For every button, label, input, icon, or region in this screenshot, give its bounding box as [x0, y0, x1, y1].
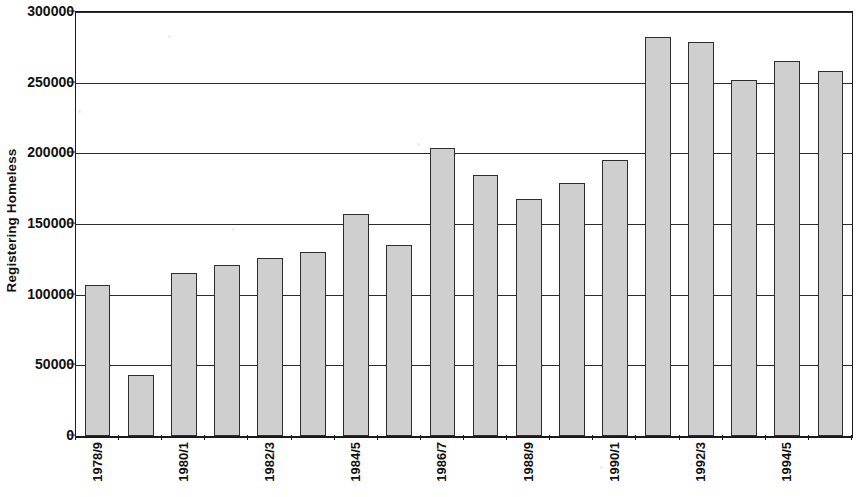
y-axis-tick-label: 250000 — [27, 75, 74, 89]
bar — [516, 199, 542, 436]
x-axis-tick-label: 1980/1 — [176, 442, 190, 496]
x-axis-tick-label-text: 1992/3 — [694, 442, 707, 482]
bar — [171, 273, 197, 436]
bar — [128, 375, 154, 436]
x-axis-tick-label-text: 1986/7 — [435, 442, 448, 482]
y-axis-tick-mark — [68, 81, 75, 82]
y-axis-tick-label: 300000 — [27, 4, 74, 18]
scan-artifact — [168, 35, 171, 38]
x-axis-tick-label: 1994/5 — [779, 442, 793, 496]
y-axis-tick-label: 150000 — [27, 216, 74, 230]
y-axis-tick-mark — [68, 435, 75, 436]
x-axis-tick-label: 1984/5 — [348, 442, 362, 496]
bar — [559, 183, 585, 436]
bar — [731, 80, 757, 436]
bar — [688, 42, 714, 436]
x-axis-tick-label-text: 1984/5 — [349, 442, 362, 482]
x-axis-tick-label: 1992/3 — [693, 442, 707, 496]
bar-chart: Registering Homeless 0500001000001500002… — [0, 0, 857, 497]
plot-area — [75, 11, 853, 438]
bar-series — [76, 12, 852, 436]
scan-artifact — [690, 463, 693, 466]
x-axis-tick-label-text: 1982/3 — [263, 442, 276, 482]
bar — [214, 265, 240, 436]
y-axis-tick-mark — [68, 152, 75, 153]
y-axis-tick-mark — [68, 223, 75, 224]
x-axis-tick-label-text: 1994/5 — [780, 442, 793, 482]
x-axis-tick-label-text: 1980/1 — [176, 442, 189, 482]
x-axis-tick-label: 1990/1 — [607, 442, 621, 496]
x-axis-tick-label-text: 1978/9 — [90, 442, 103, 482]
bar — [257, 258, 283, 436]
x-axis-tick-label: 1988/9 — [521, 442, 535, 496]
scan-artifact — [417, 143, 420, 146]
x-axis-tick-label-text: 1990/1 — [607, 442, 620, 482]
bar — [774, 61, 800, 436]
bar — [645, 37, 671, 436]
x-axis-tick-label: 1978/9 — [90, 442, 104, 496]
bar — [818, 71, 844, 436]
bar — [473, 175, 499, 436]
y-axis-tick-mark — [68, 11, 75, 12]
y-axis-tick-mark — [68, 364, 75, 365]
scan-artifact — [600, 466, 603, 469]
bar — [300, 252, 326, 436]
bar — [430, 148, 456, 436]
x-axis-tick-label-text: 1988/9 — [521, 442, 534, 482]
scan-artifact — [232, 228, 235, 231]
scan-artifact — [262, 468, 265, 471]
scan-artifact — [520, 470, 523, 473]
y-axis-tick-label: 100000 — [27, 287, 74, 301]
bar — [85, 285, 111, 436]
scan-artifact — [78, 110, 81, 113]
y-axis-tick-mark — [68, 293, 75, 294]
x-axis-tick-label: 1986/7 — [434, 442, 448, 496]
y-axis-tick-label: 200000 — [27, 145, 74, 159]
bar — [602, 160, 628, 436]
bar — [343, 214, 369, 436]
x-axis-tick-labels: 1978/91980/11982/31984/51986/71988/91990… — [75, 440, 853, 497]
y-axis-tick-labels: 050000100000150000200000250000300000 — [18, 0, 74, 440]
bar — [386, 245, 412, 436]
